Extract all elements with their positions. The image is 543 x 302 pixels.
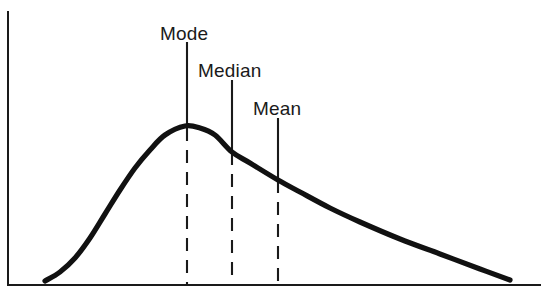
marker-label-mean: Mean [253, 98, 301, 119]
skewed-distribution-figure: ModeMedianMean [0, 0, 543, 302]
chart-canvas: ModeMedianMean [0, 0, 543, 302]
marker-label-mode: Mode [160, 23, 208, 44]
marker-label-median: Median [198, 60, 262, 81]
marker-labels-group: ModeMedianMean [160, 23, 301, 119]
